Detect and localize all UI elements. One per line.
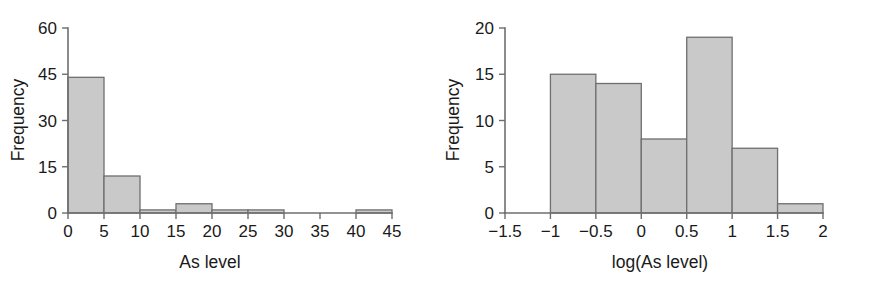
- x-tick-label: 20: [203, 222, 222, 241]
- as-level-histogram-svg: 051015202530354045 015304560 As level Fr…: [0, 0, 435, 282]
- x-tick-label: −1.5: [488, 222, 522, 241]
- histogram-bar: [687, 37, 732, 213]
- y-tick-label: 45: [38, 65, 57, 84]
- y-tick-label: 60: [38, 19, 57, 38]
- y-tick-labels-as-level: 015304560: [38, 19, 57, 223]
- x-tick-label: −0.5: [579, 222, 613, 241]
- histogram-figure: 051015202530354045 015304560 As level Fr…: [0, 0, 875, 282]
- x-tick-labels-log-as-level: −1.5−1−0.500.511.52: [488, 222, 828, 241]
- bar-group-as-level: [68, 77, 392, 213]
- x-tick-label: 35: [311, 222, 330, 241]
- histogram-bar: [68, 77, 104, 213]
- x-tick-labels-as-level: 051015202530354045: [63, 222, 401, 241]
- y-tick-label: 15: [475, 65, 494, 84]
- histogram-bar: [732, 148, 777, 213]
- x-tick-label: 30: [275, 222, 294, 241]
- y-tick-label: 20: [475, 19, 494, 38]
- x-tick-label: 0: [637, 222, 646, 241]
- x-tick-label: 2: [818, 222, 827, 241]
- histogram-bar: [176, 204, 212, 213]
- y-tick-labels-log-as-level: 05101520: [475, 19, 494, 223]
- x-tick-label: 45: [383, 222, 402, 241]
- histogram-bar: [596, 84, 641, 214]
- histogram-bar: [550, 74, 595, 213]
- y-tick-label: 15: [38, 158, 57, 177]
- x-tick-label: 0: [63, 222, 72, 241]
- x-tick-label: 1.5: [766, 222, 790, 241]
- x-axis-title-as-level: As level: [179, 252, 240, 272]
- y-tick-label: 0: [485, 204, 494, 223]
- chart-panel-as-level: 051015202530354045 015304560 As level Fr…: [0, 0, 435, 282]
- bar-group-log-as-level: [550, 37, 823, 213]
- y-tick-label: 30: [38, 112, 57, 131]
- chart-panel-log-as-level: −1.5−1−0.500.511.52 05101520 log(As leve…: [435, 0, 875, 282]
- x-tick-label: 10: [131, 222, 150, 241]
- x-axis-title-log-as-level: log(As level): [612, 252, 708, 272]
- x-tick-label: 5: [99, 222, 108, 241]
- x-tick-label: 25: [239, 222, 258, 241]
- histogram-bar: [641, 139, 686, 213]
- x-tick-label: 15: [167, 222, 186, 241]
- y-axis-title-log-as-level: Frequency: [443, 78, 463, 161]
- histogram-bar: [104, 176, 140, 213]
- x-tick-label: 0.5: [675, 222, 699, 241]
- x-tick-label: −1: [541, 222, 560, 241]
- x-tick-label: 40: [347, 222, 366, 241]
- log-as-level-histogram-svg: −1.5−1−0.500.511.52 05101520 log(As leve…: [435, 0, 875, 282]
- y-tick-label: 5: [485, 158, 494, 177]
- y-axis-title-as-level: Frequency: [8, 78, 28, 161]
- histogram-bar: [778, 204, 823, 213]
- x-tick-label: 1: [727, 222, 736, 241]
- y-tick-label: 0: [48, 204, 57, 223]
- y-tick-label: 10: [475, 112, 494, 131]
